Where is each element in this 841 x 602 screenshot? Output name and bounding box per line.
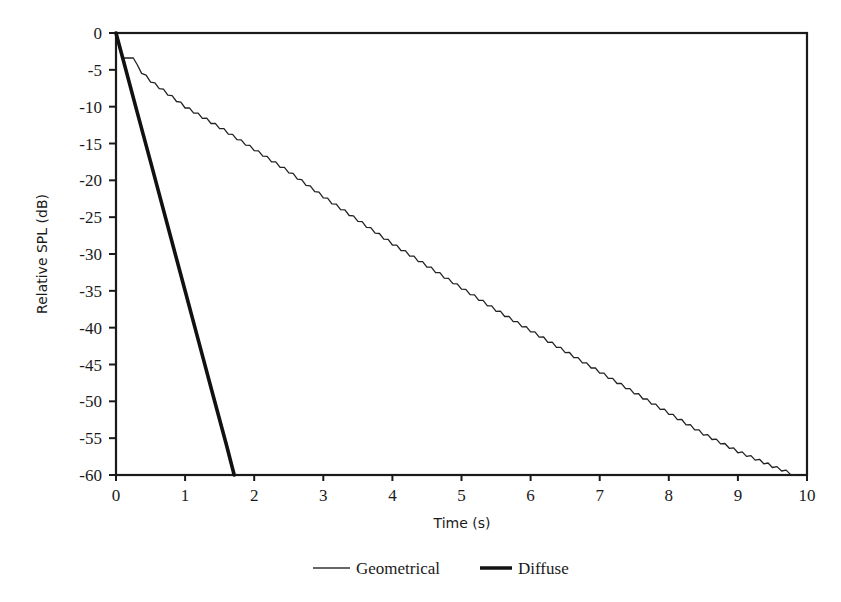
y-tick-label: -25	[79, 208, 102, 227]
x-tick-label: 6	[526, 486, 535, 505]
x-tick-label: 5	[457, 486, 466, 505]
x-tick-label: 3	[319, 486, 328, 505]
x-axis: 012345678910	[112, 475, 816, 505]
y-tick-label: 0	[94, 24, 103, 43]
y-tick-label: -30	[79, 245, 102, 264]
plot-border	[116, 33, 807, 475]
y-tick-label: -50	[79, 392, 102, 411]
y-tick-label: -55	[79, 429, 102, 448]
x-tick-label: 10	[799, 486, 816, 505]
x-tick-label: 1	[181, 486, 190, 505]
y-tick-label: -5	[88, 61, 102, 80]
x-tick-label: 7	[595, 486, 604, 505]
legend: Geometrical Diffuse	[313, 559, 569, 578]
y-tick-label: -15	[79, 135, 102, 154]
y-axis: 0-5-10-15-20-25-30-35-40-45-50-55-60	[79, 24, 116, 485]
y-tick-label: -20	[79, 171, 102, 190]
x-tick-label: 2	[250, 486, 259, 505]
x-tick-label: 8	[665, 486, 674, 505]
legend-item-diffuse: Diffuse	[480, 559, 569, 578]
legend-label: Diffuse	[518, 559, 569, 578]
x-tick-label: 4	[388, 486, 397, 505]
x-tick-label: 0	[112, 486, 121, 505]
y-tick-label: -40	[79, 319, 102, 338]
x-tick-label: 9	[734, 486, 743, 505]
rt-decay-chart: 0-5-10-15-20-25-30-35-40-45-50-55-60 012…	[0, 0, 841, 602]
y-tick-label: -35	[79, 282, 102, 301]
y-tick-label: -10	[79, 98, 102, 117]
legend-label: Geometrical	[356, 559, 440, 578]
x-axis-title: Time (s)	[433, 515, 491, 531]
series-layer	[116, 33, 795, 475]
y-tick-label: -45	[79, 356, 102, 375]
plot-area	[116, 33, 807, 475]
y-tick-label: -60	[79, 466, 102, 485]
y-axis-title: Relative SPL (dB)	[34, 194, 50, 314]
legend-item-geometrical: Geometrical	[313, 559, 440, 578]
